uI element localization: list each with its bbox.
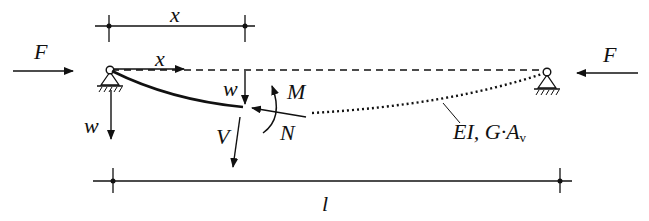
left-pin-support-icon [97,66,123,92]
deformed-beam-dotted [312,73,545,113]
span-length-label: l [322,193,328,215]
stiffness-main-text: EI, G·A [453,119,520,144]
moment-label: M [287,81,305,103]
w-axis-label: w [84,115,99,137]
beam-diagram [0,0,649,221]
normal-force-arrow [252,108,306,117]
span-dimension-line [93,168,572,193]
x-axis-label: x [155,48,165,70]
shear-force-arrow [233,117,240,167]
right-pin-support-icon [534,68,560,95]
force-left-label: F [34,41,47,63]
normal-force-label: N [280,122,295,144]
shear-force-label: V [216,126,229,148]
top-dimension-label: x [170,4,180,26]
stiffness-label: EI, G·Av [453,121,526,144]
stiffness-subscript: v [520,130,527,145]
force-right-label: F [603,44,616,66]
deflection-w-label: w [223,78,238,100]
